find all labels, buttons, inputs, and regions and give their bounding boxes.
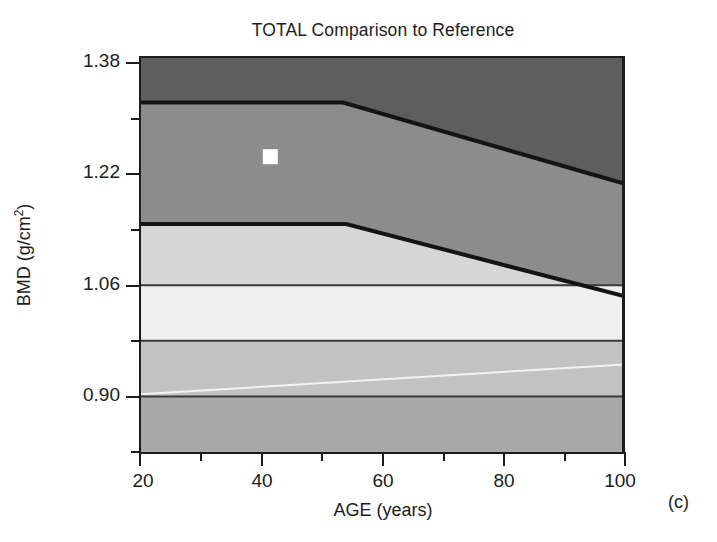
y-axis-title-main: BMD (g/cm [14,216,34,306]
y-axis-title: BMD (g/cm2) [14,150,35,360]
bmd-reference-figure: TOTAL Comparison to Reference [0,0,717,542]
axis-left-spine [139,56,141,453]
y-tick-1-22 [126,173,140,175]
x-axis-title: AGE (years) [140,500,626,521]
y-axis-title-suffix: ) [14,204,34,210]
panel-label: (c) [668,492,689,513]
patient-measurement-marker[interactable] [263,149,278,164]
x-tick-60 [382,453,384,466]
y-tick-label-1-06: 1.06 [64,273,120,295]
y-tick-0-90 [126,396,140,398]
x-tick-20 [139,453,141,466]
y-tick-0-98 [131,340,140,342]
x-tick-label-40: 40 [251,470,272,492]
x-tick-50 [321,453,323,461]
y-tick-1-38 [126,62,140,64]
x-tick-80 [503,453,505,466]
plot-canvas [140,56,625,452]
page-title: TOTAL Comparison to Reference [140,20,626,41]
x-tick-label-80: 80 [493,470,514,492]
x-tick-30 [200,453,202,461]
x-tick-label-20: 20 [132,470,153,492]
x-tick-label-100: 100 [604,470,636,492]
band-minus2sd [140,396,625,452]
y-axis-title-exponent: 2 [12,210,26,217]
x-tick-40 [261,453,263,466]
y-tick-label-1-38: 1.38 [64,50,120,72]
y-tick-1-30 [131,118,140,120]
y-tick-label-0-90: 0.90 [64,384,120,406]
y-tick-1-14 [131,229,140,231]
x-tick-100 [624,453,626,466]
x-tick-90 [564,453,566,461]
band-mean-upper [140,285,625,341]
y-tick-1-06 [126,285,140,287]
y-tick-label-1-22: 1.22 [64,161,120,183]
x-tick-70 [443,453,445,461]
x-tick-label-60: 60 [372,470,393,492]
plot-area [140,56,625,452]
